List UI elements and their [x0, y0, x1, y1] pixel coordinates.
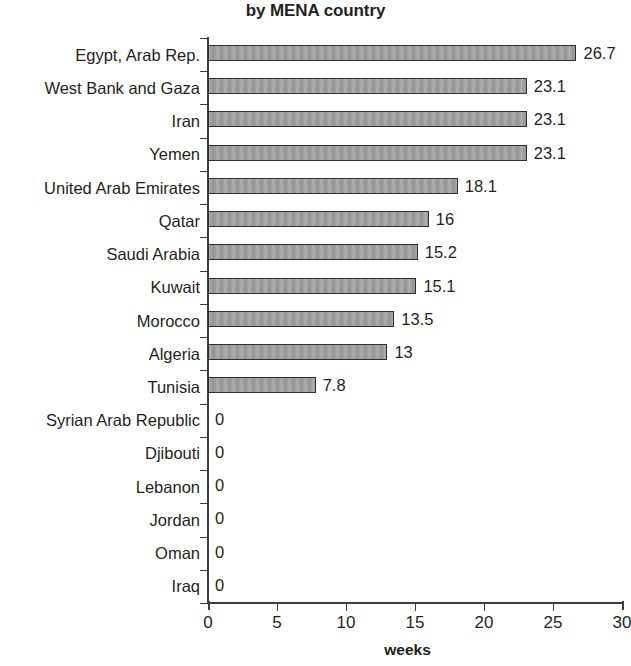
- bar-row: 16: [208, 204, 622, 235]
- x-axis-title: weeks: [0, 641, 631, 659]
- x-axis-tick-label: 0: [203, 613, 212, 633]
- bar: [208, 178, 458, 194]
- x-axis-tick-label: 5: [272, 613, 281, 633]
- category-label: Qatar: [7, 211, 207, 231]
- x-axis-tick: [346, 603, 347, 611]
- x-axis-tick-label: 30: [613, 613, 631, 633]
- bar: [208, 311, 394, 327]
- category-label: Morocco: [7, 311, 207, 331]
- y-axis-tick: [200, 38, 208, 39]
- y-axis-tick: [200, 570, 208, 571]
- bar-value-label: 15.1: [423, 276, 455, 296]
- bar-value-label: 23.1: [534, 143, 566, 163]
- category-label: United Arab Emirates: [7, 178, 207, 198]
- y-axis-tick: [200, 204, 208, 205]
- category-label: Kuwait: [7, 277, 207, 297]
- bar: [208, 278, 416, 294]
- bar-value-label: 13.5: [401, 309, 433, 329]
- category-label: Yemen: [7, 144, 207, 164]
- bar-value-label: 15.2: [425, 242, 457, 262]
- bar-value-label: 16: [436, 209, 454, 229]
- bar-row: 15.2: [208, 237, 622, 268]
- x-axis-title-text: weeks: [384, 641, 431, 659]
- category-label: Syrian Arab Republic: [7, 410, 207, 430]
- category-label: Jordan: [7, 510, 207, 530]
- x-axis-tick: [415, 603, 416, 611]
- y-axis-tick: [200, 138, 208, 139]
- bar-value-label: 0: [215, 508, 224, 528]
- y-axis-tick: [200, 71, 208, 72]
- bar-value-label: 0: [215, 542, 224, 562]
- bar-row: 0: [208, 404, 622, 435]
- y-axis-tick: [200, 603, 208, 604]
- x-axis-tick: [553, 603, 554, 611]
- y-axis-tick: [200, 370, 208, 371]
- bar-value-label: 0: [215, 575, 224, 595]
- bar-texture: [209, 112, 526, 126]
- bar-row: 23.1: [208, 138, 622, 169]
- x-axis-tick: [622, 601, 624, 610]
- bar-texture: [209, 245, 417, 259]
- category-label: Iran: [7, 111, 207, 131]
- x-axis-tick-label: 15: [406, 613, 425, 633]
- category-label: West Bank and Gaza: [7, 78, 207, 98]
- x-axis-tick: [277, 603, 278, 611]
- bar-row: 0: [208, 503, 622, 534]
- bar-row: 26.7: [208, 38, 622, 69]
- bar: [208, 211, 429, 227]
- y-axis-tick: [200, 237, 208, 238]
- y-axis-tick: [200, 271, 208, 272]
- bar-row: 0: [208, 437, 622, 468]
- bar-value-label: 23.1: [534, 76, 566, 96]
- category-label: Oman: [7, 543, 207, 563]
- bar-row: 0: [208, 570, 622, 601]
- bar-value-label: 0: [215, 409, 224, 429]
- bar-row: 18.1: [208, 171, 622, 202]
- category-label: Saudi Arabia: [7, 244, 207, 264]
- x-axis-tick-label: 25: [544, 613, 563, 633]
- bar: [208, 244, 418, 260]
- y-axis-tick: [200, 470, 208, 471]
- bar-row: 13: [208, 337, 622, 368]
- bar-texture: [209, 378, 315, 392]
- x-axis-tick-label: 10: [337, 613, 356, 633]
- bar-row: 15.1: [208, 271, 622, 302]
- bar-row: 13.5: [208, 304, 622, 335]
- bar-value-label: 0: [215, 475, 224, 495]
- bar-value-label: 26.7: [583, 43, 615, 63]
- bar: [208, 78, 527, 94]
- y-axis-tick: [200, 437, 208, 438]
- y-axis-tick: [200, 171, 208, 172]
- bar-texture: [209, 146, 526, 160]
- category-label: Tunisia: [7, 377, 207, 397]
- bar-texture: [209, 345, 386, 359]
- y-axis-tick: [200, 104, 208, 105]
- y-axis-tick: [200, 503, 208, 504]
- category-label: Egypt, Arab Rep.: [7, 45, 207, 65]
- y-axis-tick: [200, 337, 208, 338]
- bar: [208, 111, 527, 127]
- bar-texture: [209, 46, 575, 60]
- bar-texture: [209, 279, 415, 293]
- y-axis-tick: [200, 404, 208, 405]
- bar: [208, 344, 387, 360]
- bar-texture: [209, 179, 457, 193]
- bar-texture: [209, 212, 428, 226]
- bar: [208, 45, 576, 61]
- bar-row: 0: [208, 537, 622, 568]
- bar-row: 23.1: [208, 71, 622, 102]
- bar: [208, 145, 527, 161]
- chart-title: by MENA country: [0, 1, 631, 21]
- bar-row: 23.1: [208, 104, 622, 135]
- y-axis-tick: [200, 537, 208, 538]
- category-axis-labels: Egypt, Arab Rep.West Bank and GazaIranYe…: [0, 38, 207, 603]
- bar-value-label: 7.8: [323, 375, 346, 395]
- bar-row: 7.8: [208, 370, 622, 401]
- x-axis-tick: [484, 603, 485, 611]
- plot-area: 26.723.123.123.118.11615.215.113.5137.80…: [208, 38, 622, 603]
- bar-value-label: 23.1: [534, 109, 566, 129]
- category-label: Iraq: [7, 576, 207, 596]
- category-label: Lebanon: [7, 477, 207, 497]
- bar-value-label: 0: [215, 442, 224, 462]
- y-axis-tick: [200, 304, 208, 305]
